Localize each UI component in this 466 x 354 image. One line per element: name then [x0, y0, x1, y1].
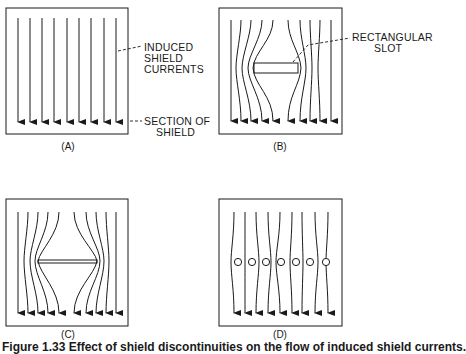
- hole: [322, 258, 329, 265]
- rectangular-slot: [254, 63, 298, 73]
- panel-label-a: (A): [48, 141, 88, 152]
- label-rectangular-slot: RECTANGULAR SLOT: [352, 32, 433, 54]
- panel-label-d: (D): [260, 329, 300, 340]
- hole: [292, 258, 299, 265]
- hole: [262, 258, 269, 265]
- thin-slot: [38, 260, 97, 263]
- label-line: CURRENTS: [144, 64, 204, 75]
- figure-caption: Figure 1.33 Effect of shield discontinui…: [2, 340, 466, 354]
- panel-label-c: (C): [48, 329, 88, 340]
- hole: [234, 258, 241, 265]
- current-arrows-a: [18, 18, 116, 122]
- leader-line-slot: [293, 38, 350, 62]
- leader-line-currents: [118, 46, 142, 51]
- hole: [306, 258, 313, 265]
- panel-b: [219, 8, 350, 134]
- label-line: SLOT: [352, 43, 433, 54]
- panel-label-b: (B): [260, 141, 300, 152]
- hole-row: [234, 258, 329, 265]
- panel-a: [6, 8, 142, 134]
- panel-c: [6, 199, 128, 326]
- hole: [277, 258, 284, 265]
- panel-d: [219, 199, 342, 326]
- label-line: SHIELD: [144, 127, 210, 138]
- hole: [248, 258, 255, 265]
- label-section-of-shield: SECTION OF SHIELD: [144, 116, 210, 138]
- label-induced-currents: INDUCED SHIELD CURRENTS: [144, 42, 204, 75]
